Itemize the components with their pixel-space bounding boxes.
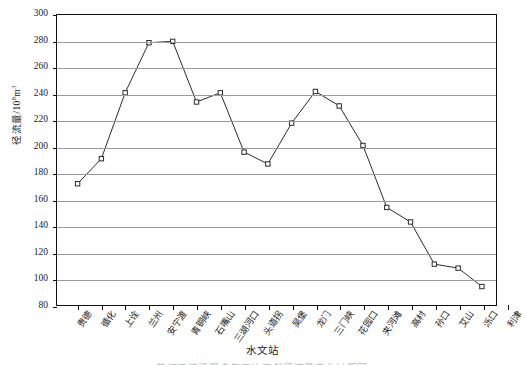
y-axis-tick-label: 160: [22, 195, 48, 205]
x-axis-tick-mark: [508, 305, 509, 310]
x-axis-tick-label: 高村: [408, 308, 429, 330]
series-line: [78, 41, 482, 286]
runoff-line-chart-figure: 径流量/108m3 801001201401601802002202402602…: [0, 0, 524, 365]
x-axis-tick-label: 青铜峡: [188, 308, 214, 338]
x-axis-tick-label: 贵德: [73, 308, 94, 330]
x-axis-tick-label: 艾山: [456, 308, 477, 330]
plot-area: [56, 14, 497, 306]
x-axis-tick-label: 吴堡: [288, 308, 309, 330]
y-axis-tick-labels: 80100120140160180200220240260280300: [0, 0, 48, 365]
y-axis-tick-label: 240: [22, 89, 48, 99]
y-axis-tick-label: 140: [22, 222, 48, 232]
gridline: [57, 95, 496, 96]
y-axis-tick-label: 80: [22, 301, 48, 311]
data-series-layer: [57, 15, 496, 305]
data-point-marker[interactable]: [194, 100, 198, 104]
gridline: [57, 280, 496, 281]
data-point-marker[interactable]: [75, 182, 79, 186]
data-point-marker[interactable]: [337, 104, 341, 108]
gridline: [57, 68, 496, 69]
x-axis-tick-label: 利津: [503, 308, 524, 330]
gridline: [57, 148, 496, 149]
y-axis-tick-label: 280: [22, 36, 48, 46]
y-axis-tick-mark: [53, 15, 57, 16]
x-axis-tick-label: 头道拐: [259, 308, 285, 338]
x-axis-tick-label: 孙口: [432, 308, 453, 330]
gridline: [57, 227, 496, 228]
data-point-marker[interactable]: [408, 220, 412, 224]
y-axis-tick-label: 100: [22, 275, 48, 285]
data-point-marker[interactable]: [313, 89, 317, 93]
x-axis-tick-label: 兰州: [145, 308, 166, 330]
gridline: [57, 174, 496, 175]
x-axis-tick-label: 泺口: [479, 308, 500, 330]
data-point-marker[interactable]: [266, 162, 270, 166]
data-point-marker[interactable]: [242, 150, 246, 154]
data-point-marker[interactable]: [99, 156, 103, 160]
data-point-marker[interactable]: [480, 284, 484, 288]
x-axis-tick-label: 循化: [97, 308, 118, 330]
data-point-marker[interactable]: [432, 262, 436, 266]
x-axis-tick-label: 花园口: [355, 308, 381, 338]
gridline: [57, 201, 496, 202]
y-axis-tick-label: 120: [22, 248, 48, 258]
y-axis-tick-label: 220: [22, 115, 48, 125]
y-axis-tick-label: 260: [22, 62, 48, 72]
figure-caption: 黄河干流沿程多年平均天然径流量变化过程图: [0, 360, 524, 365]
gridline: [57, 121, 496, 122]
x-axis-tick-label: 三门峡: [331, 308, 357, 338]
data-point-marker[interactable]: [385, 205, 389, 209]
gridline: [57, 254, 496, 255]
data-point-marker[interactable]: [456, 266, 460, 270]
x-axis-title: 水文站: [0, 342, 524, 357]
y-axis-tick-label: 200: [22, 142, 48, 152]
y-axis-tick-label: 300: [22, 9, 48, 19]
x-axis-tick-label: 龙门: [312, 308, 333, 330]
gridline: [57, 42, 496, 43]
y-axis-tick-label: 180: [22, 169, 48, 179]
x-axis-tick-label: 上诠: [121, 308, 142, 330]
x-axis-tick-label: 安宁渡: [164, 308, 190, 338]
x-axis-tick-label: 夹河滩: [379, 308, 405, 338]
